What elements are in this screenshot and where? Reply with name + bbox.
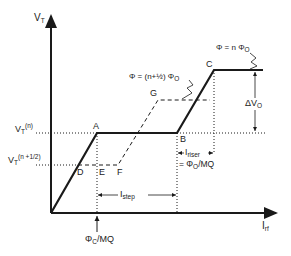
x-axis-label-sub: rf bbox=[265, 225, 269, 232]
phi-half-sub: O bbox=[174, 75, 179, 82]
y-axis-label: VT bbox=[34, 13, 45, 25]
y-axis-label-sub: T bbox=[41, 17, 45, 24]
diagram-canvas bbox=[0, 0, 291, 256]
i-riser-annotation: Iriser bbox=[185, 148, 200, 159]
phi-half-text: Φ = (n+½) Φ bbox=[129, 72, 174, 81]
i-step-sub: step bbox=[123, 193, 135, 200]
vt-half-label: VT(n +1/2) bbox=[8, 154, 41, 167]
x-axis-label: Irf bbox=[262, 221, 269, 233]
point-c: C bbox=[206, 60, 213, 69]
delta-v-sub: O bbox=[257, 102, 262, 109]
i-riser-sub: riser bbox=[187, 151, 200, 158]
vt-n-sup: (n) bbox=[25, 122, 33, 129]
point-f: F bbox=[117, 168, 123, 177]
vt-n-label: VT(n) bbox=[15, 123, 33, 136]
phi-half-annotation: Φ = (n+½) ΦO bbox=[129, 73, 179, 83]
phi-n-text: Φ = n Φ bbox=[216, 43, 245, 52]
point-a: A bbox=[93, 122, 99, 131]
delta-v-annotation: ΔVO bbox=[245, 99, 262, 110]
i-riser-equation: = ΦO/MQ bbox=[179, 160, 214, 171]
point-b: B bbox=[180, 135, 186, 144]
phi-half-squiggle-icon bbox=[182, 80, 193, 99]
phi-n-annotation: Φ = n ΦO bbox=[216, 44, 250, 54]
phi-c-tail: /MQ bbox=[97, 234, 114, 244]
i-riser-eq-text: = Φ bbox=[179, 159, 193, 169]
phi-c-annotation: ΦC/MQ bbox=[85, 235, 114, 246]
i-step-annotation: Istep bbox=[120, 190, 135, 201]
i-riser-eq-tail: /MQ bbox=[198, 159, 214, 169]
vt-half-sup: (n +1/2) bbox=[18, 153, 41, 160]
point-e: E bbox=[99, 168, 105, 177]
vt-n-sub: T bbox=[21, 128, 25, 135]
point-g: G bbox=[150, 89, 157, 98]
vt-half-sub: T bbox=[14, 159, 18, 166]
phi-n-squiggle-icon bbox=[250, 53, 257, 69]
y-axis-label-main: V bbox=[34, 12, 41, 23]
phi-n-sub: O bbox=[245, 46, 250, 53]
point-d: D bbox=[77, 168, 84, 177]
delta-v-text: ΔV bbox=[245, 98, 257, 108]
